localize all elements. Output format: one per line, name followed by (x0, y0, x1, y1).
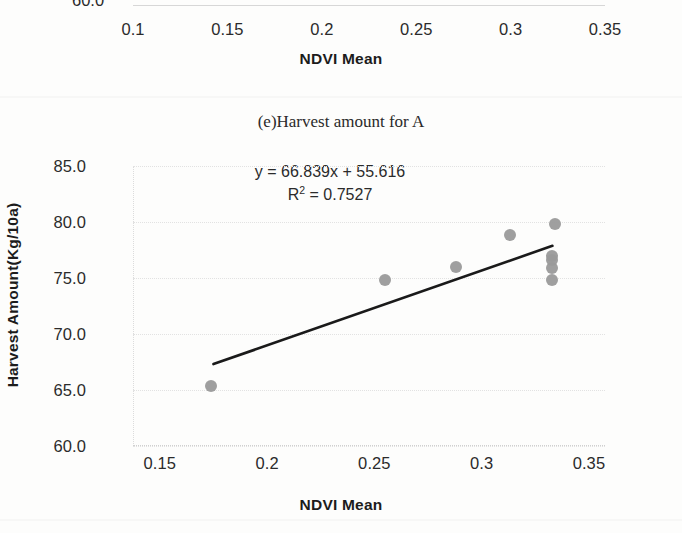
previous-chart-x-tick: 0.25 (400, 20, 433, 39)
previous-chart-axis-line (133, 5, 605, 6)
y-axis-tick: 85.0 (53, 157, 86, 176)
x-axis-tick: 0.3 (470, 454, 493, 473)
previous-chart-x-ticks: 0.10.150.20.250.30.35 (0, 20, 682, 42)
previous-chart-x-tick: 0.1 (121, 20, 144, 39)
scan-artifact (0, 96, 682, 98)
y-axis-tick: 80.0 (53, 213, 86, 232)
previous-chart-y-tick: 60.0 (72, 0, 104, 10)
harvest-amount-scatter-chart: (e)Harvest amount for A y = 66.839x + 55… (0, 100, 682, 533)
previous-chart-remnant: 60.0 0.10.150.20.250.30.35 NDVI Mean (0, 0, 682, 96)
x-axis-tick: 0.25 (358, 454, 391, 473)
y-axis-title: Harvest Amount(Kg/10a) (4, 170, 22, 420)
previous-chart-x-tick: 0.35 (589, 20, 622, 39)
y-axis-tick: 65.0 (53, 381, 86, 400)
x-axis-tick: 0.35 (573, 454, 606, 473)
plot-area (133, 166, 605, 446)
previous-chart-x-tick: 0.2 (310, 20, 333, 39)
x-axis-tick: 0.15 (144, 454, 177, 473)
y-axis-tick: 75.0 (53, 269, 86, 288)
trendline (133, 166, 605, 446)
previous-chart-x-tick: 0.15 (211, 20, 244, 39)
y-axis-tick: 60.0 (53, 437, 86, 456)
y-axis-tick: 70.0 (53, 325, 86, 344)
document-page: 60.0 0.10.150.20.250.30.35 NDVI Mean (e)… (0, 0, 682, 533)
previous-chart-x-tick: 0.3 (499, 20, 522, 39)
previous-chart-x-axis-title: NDVI Mean (300, 50, 383, 68)
chart-title: (e)Harvest amount for A (0, 112, 682, 132)
x-axis-title: NDVI Mean (300, 496, 383, 514)
x-axis-tick: 0.2 (255, 454, 278, 473)
gridline (133, 446, 605, 447)
